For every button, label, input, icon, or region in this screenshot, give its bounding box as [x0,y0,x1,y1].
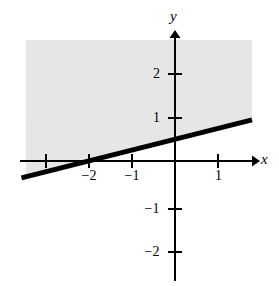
x-axis-label: x [261,152,268,167]
y-tick-label-neg1: −1 [141,202,163,216]
coordinate-plane-svg [0,0,279,286]
y-axis-label: y [170,9,177,24]
inequality-graph-figure: y x −2 −1 1 2 1 −1 −2 [0,0,279,286]
y-tick-label-pos1: 1 [150,111,163,125]
x-tick-label-neg2: −2 [78,169,100,183]
y-tick-label-neg2: −2 [141,245,163,259]
x-tick-label-neg1: −1 [121,169,143,183]
y-tick-label-pos2: 2 [150,67,163,81]
x-tick-label-pos1: 1 [212,169,225,183]
